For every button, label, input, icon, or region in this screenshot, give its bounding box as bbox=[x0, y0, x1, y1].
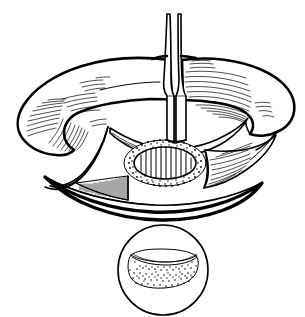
inset-detail-circle bbox=[118, 225, 208, 315]
illustration-root bbox=[0, 0, 305, 317]
central-striped-oval bbox=[124, 139, 206, 187]
surgical-illustration bbox=[0, 0, 305, 317]
oval-inner-outline bbox=[134, 147, 196, 179]
